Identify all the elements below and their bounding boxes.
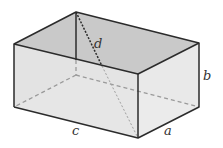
box-diagram: d b c a (0, 0, 223, 148)
label-d: d (94, 36, 102, 51)
label-c: c (72, 123, 80, 138)
label-a: a (164, 123, 172, 138)
label-b: b (203, 68, 211, 83)
